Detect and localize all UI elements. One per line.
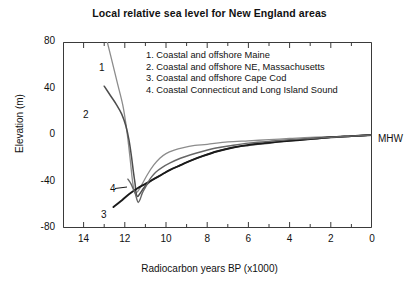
series-line-1	[107, 42, 372, 193]
x-tick-label: 14	[64, 233, 104, 244]
plot-svg: 1234	[63, 42, 372, 228]
x-tick-label: 2	[311, 233, 351, 244]
y-tick-label: 0	[13, 128, 55, 139]
x-tick-label: 6	[228, 233, 268, 244]
plot-area: 1234	[63, 42, 372, 228]
curve-label-3: 3	[101, 209, 107, 220]
axis-group	[64, 43, 372, 228]
x-tick-label: 12	[105, 233, 145, 244]
curve-label-2: 2	[83, 109, 89, 120]
y-tick-label: 80	[13, 35, 55, 46]
x-tick-label: 4	[270, 233, 310, 244]
curve-label-4-leader	[115, 187, 127, 189]
tick-group	[63, 42, 372, 228]
x-axis-label: Radiocarbon years BP (x1000)	[0, 263, 419, 274]
curve-group	[104, 42, 372, 207]
y-tick-label: -40	[13, 175, 55, 186]
x-tick-label: 8	[187, 233, 227, 244]
y-tick-label: -80	[13, 221, 55, 232]
page-title: Local relative sea level for New England…	[0, 7, 419, 19]
curve-label-1: 1	[99, 62, 105, 73]
x-tick-label: 10	[146, 233, 186, 244]
x-tick-label: 0	[352, 233, 392, 244]
chart-figure: Local relative sea level for New England…	[0, 0, 419, 286]
series-line-3	[113, 135, 372, 207]
y-tick-label: 40	[13, 82, 55, 93]
mhw-reference-label: MHW	[378, 133, 403, 144]
